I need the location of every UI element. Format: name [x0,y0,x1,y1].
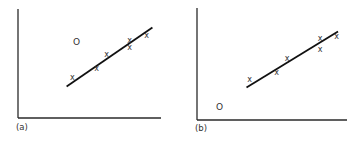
data-point: x [70,73,75,82]
data-point: x [285,54,290,63]
data-point: x [318,34,323,43]
panel-b: xxxxxxO (b) [195,8,347,133]
data-point: x [247,75,252,84]
panel-label: (b) [195,123,207,133]
data-point: x [104,50,109,59]
data-point: x [127,43,132,52]
panel-label: (a) [16,122,28,132]
data-point: x [274,68,279,77]
outlier-point: O [216,102,223,112]
outlier-point: O [73,37,80,47]
data-point: x [94,64,99,73]
fit-line [247,32,339,88]
scatter-layer: xxxxxxO [67,28,153,87]
figure: xxxxxxO (a) xxxxxxO (b) [0,0,362,145]
panel-a: xxxxxxO (a) [16,9,161,132]
data-point: x [144,31,149,40]
scatter-layer: xxxxxxO [216,32,339,112]
data-point: x [318,45,323,54]
data-point: x [334,32,339,41]
